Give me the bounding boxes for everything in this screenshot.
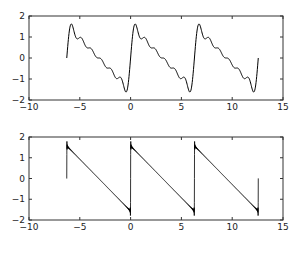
data-line <box>67 141 259 215</box>
y-tick-label: −2 <box>12 95 25 105</box>
x-tick-label: 15 <box>277 102 288 112</box>
data-line <box>67 24 259 92</box>
y-tick-label: 2 <box>19 132 25 142</box>
y-tick-label: 2 <box>19 11 25 21</box>
x-tick-label: 0 <box>128 222 134 232</box>
y-tick-label: 0 <box>19 174 25 184</box>
figure: −10−5051015−2−1012 −10−5051015−2−1012 <box>0 0 300 256</box>
x-tick-label: 10 <box>226 222 238 232</box>
y-tick-label: 0 <box>19 53 25 63</box>
x-tick-label: 0 <box>128 102 134 112</box>
y-tick-label: −1 <box>12 74 25 84</box>
x-tick-label: −5 <box>73 222 86 232</box>
y-tick-label: 1 <box>19 32 25 42</box>
x-tick-label: −5 <box>73 102 86 112</box>
y-tick-label: −2 <box>12 215 25 225</box>
x-tick-label: 5 <box>179 102 185 112</box>
y-tick-label: −1 <box>12 194 25 204</box>
x-tick-label: 5 <box>179 222 185 232</box>
top-subplot: −10−5051015−2−1012 <box>12 11 289 112</box>
x-tick-label: 15 <box>277 222 288 232</box>
y-tick-label: 1 <box>19 153 25 163</box>
x-tick-label: 10 <box>226 102 238 112</box>
bottom-subplot: −10−5051015−2−1012 <box>12 132 289 232</box>
